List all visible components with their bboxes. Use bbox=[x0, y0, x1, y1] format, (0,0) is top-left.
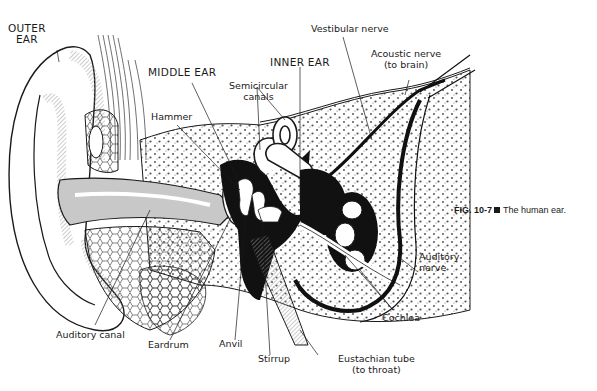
label-acoustic-line1: Acoustic nerve bbox=[371, 48, 441, 59]
label-outer-ear-line2: EAR bbox=[8, 34, 46, 45]
label-inner-ear: INNER EAR bbox=[270, 57, 330, 68]
label-eustachian-tube: Eustachian tube (to throat) bbox=[338, 353, 415, 375]
label-hammer: Hammer bbox=[151, 111, 192, 122]
label-semicircular-line2: canals bbox=[229, 91, 288, 102]
figure-caption: FIG. 10-7The human ear. bbox=[454, 205, 566, 215]
caption-text: The human ear. bbox=[503, 205, 566, 215]
label-eardrum: Eardrum bbox=[148, 339, 189, 350]
label-auditory-nerve-line2: nerve bbox=[419, 262, 459, 273]
label-semicircular-line1: Semicircular bbox=[229, 80, 288, 91]
stirrup-bone bbox=[258, 206, 282, 222]
label-auditory-canal: Auditory canal bbox=[56, 329, 125, 340]
ear-diagram-figure: OUTER EAR MIDDLE EAR INNER EAR Hammer Se… bbox=[0, 0, 597, 391]
label-cochlea: Cochlea bbox=[382, 312, 420, 323]
label-middle-ear: MIDDLE EAR bbox=[148, 67, 216, 78]
label-eustachian-line2: (to throat) bbox=[338, 364, 415, 375]
label-stirrup: Stirrup bbox=[258, 353, 290, 364]
label-acoustic-nerve: Acoustic nerve (to brain) bbox=[371, 48, 441, 70]
label-auditory-nerve: Auditory nerve bbox=[419, 251, 459, 273]
label-acoustic-line2: (to brain) bbox=[371, 59, 441, 70]
label-auditory-nerve-line1: Auditory bbox=[419, 251, 459, 262]
label-vestibular-nerve: Vestibular nerve bbox=[311, 23, 389, 34]
label-anvil: Anvil bbox=[219, 338, 242, 349]
tissue-gland bbox=[89, 126, 103, 158]
label-outer-ear: OUTER EAR bbox=[8, 23, 46, 45]
label-semicircular-canals: Semicircular canals bbox=[229, 80, 288, 102]
black-square-icon bbox=[494, 207, 500, 213]
label-eustachian-line1: Eustachian tube bbox=[338, 353, 415, 364]
caption-number: FIG. 10-7 bbox=[454, 205, 492, 215]
